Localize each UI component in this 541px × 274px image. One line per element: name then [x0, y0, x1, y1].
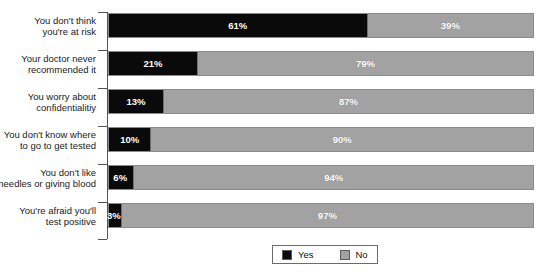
bar-value-label: 90% — [333, 134, 352, 145]
category-label-line: You don't like — [0, 166, 96, 178]
legend-item-yes[interactable]: Yes — [282, 249, 314, 260]
plot-area: You don't think you're at risk 61% 39% Y… — [0, 12, 541, 240]
category-label: You're afraid you'll test positive — [0, 204, 96, 227]
category-label-line: You don't know where — [0, 128, 96, 140]
stacked-bar[interactable]: 10% 90% — [108, 127, 534, 152]
category-label-line: test positive — [0, 216, 96, 228]
bar-value-label: 97% — [318, 210, 337, 221]
axis-tick — [98, 239, 107, 240]
category-label: Your doctor never recommended it — [0, 52, 96, 75]
category-label-line: confidentialitiy — [0, 102, 96, 114]
bar-segment-no[interactable]: 94% — [134, 166, 533, 189]
bar-segment-yes[interactable]: 61% — [109, 14, 368, 37]
legend-item-no[interactable]: No — [340, 249, 368, 260]
bar-segment-no[interactable]: 87% — [164, 90, 533, 113]
stacked-bar[interactable]: 3% 97% — [108, 203, 534, 228]
stacked-bar[interactable]: 13% 87% — [108, 89, 534, 114]
bar-value-label: 39% — [441, 20, 460, 31]
stacked-bar[interactable]: 6% 94% — [108, 165, 534, 190]
bar-value-label: 87% — [339, 96, 358, 107]
bar-value-label: 3% — [107, 210, 121, 221]
bar-value-label: 94% — [324, 172, 343, 183]
category-label-line: needles or giving blood — [0, 178, 96, 190]
chart-row: You don't know where to go to get tested… — [0, 127, 541, 152]
category-label-line: Your doctor never — [0, 52, 96, 64]
stacked-bar[interactable]: 21% 79% — [108, 51, 534, 76]
chart-row: You don't like needles or giving blood 6… — [0, 165, 541, 190]
bar-segment-no[interactable]: 79% — [198, 52, 533, 75]
bar-segment-yes[interactable]: 21% — [109, 52, 198, 75]
bar-value-label: 21% — [144, 58, 163, 69]
category-label-line: you're at risk — [0, 26, 96, 38]
legend-swatch-yes — [282, 250, 292, 260]
category-label-line: You worry about — [0, 90, 96, 102]
stacked-bar[interactable]: 61% 39% — [108, 13, 534, 38]
bar-segment-no[interactable]: 39% — [368, 14, 533, 37]
chart-title: Asked of the 55% who have never been tes… — [0, 0, 541, 2]
chart-legend: Yes No — [272, 245, 378, 264]
category-label-line: You're afraid you'll — [0, 204, 96, 216]
legend-label: No — [356, 249, 368, 260]
chart-row: You worry about confidentialitiy 13% 87% — [0, 89, 541, 114]
bar-segment-yes[interactable]: 13% — [109, 90, 164, 113]
category-label-line: to go to get tested — [0, 140, 96, 152]
category-label: You don't know where to go to get tested — [0, 128, 96, 151]
chart-row: You're afraid you'll test positive 3% 97… — [0, 203, 541, 228]
legend-swatch-no — [340, 250, 350, 260]
bar-segment-no[interactable]: 97% — [122, 204, 533, 227]
legend-label: Yes — [298, 249, 314, 260]
bar-value-label: 61% — [228, 20, 247, 31]
bar-value-label: 6% — [113, 172, 127, 183]
category-label: You worry about confidentialitiy — [0, 90, 96, 113]
category-label-line: You don't think — [0, 14, 96, 26]
bar-value-label: 13% — [127, 96, 146, 107]
chart-row: Your doctor never recommended it 21% 79% — [0, 51, 541, 76]
category-label: You don't think you're at risk — [0, 14, 96, 37]
bar-segment-yes[interactable]: 6% — [109, 166, 134, 189]
bar-segment-yes[interactable]: 10% — [109, 128, 151, 151]
bar-value-label: 79% — [356, 58, 375, 69]
bar-segment-yes[interactable]: 3% — [109, 204, 122, 227]
chart-row: You don't think you're at risk 61% 39% — [0, 13, 541, 38]
bar-segment-no[interactable]: 90% — [151, 128, 533, 151]
bar-value-label: 10% — [120, 134, 139, 145]
category-label: You don't like needles or giving blood — [0, 166, 96, 189]
category-label-line: recommended it — [0, 64, 96, 76]
chart-container: Asked of the 55% who have never been tes… — [0, 0, 541, 274]
